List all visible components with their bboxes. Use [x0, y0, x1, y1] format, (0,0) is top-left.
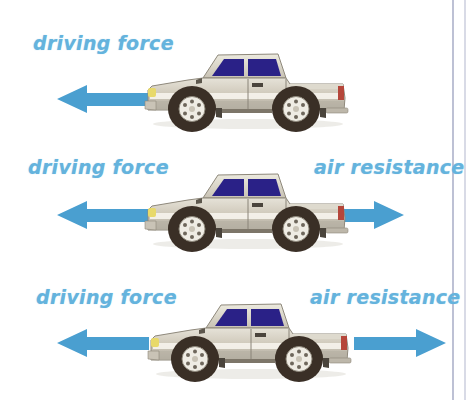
driving-force-arrow-left-row-3: [57, 328, 149, 358]
driving-force-arrow-left-row-1: [57, 84, 149, 114]
diagram-canvas: driving force: [0, 0, 468, 400]
pickup-truck-row-1: [140, 38, 355, 133]
force-diagram-row-2: driving force air resistance: [0, 138, 468, 268]
pickup-truck-row-3: [143, 288, 358, 383]
driving-force-arrow-left-row-2: [57, 200, 149, 230]
air-resistance-arrow-right-row-3: [354, 328, 446, 358]
pickup-truck-row-2: [140, 158, 355, 253]
force-diagram-row-3: driving force air resistance: [0, 266, 468, 396]
force-diagram-row-1: driving force: [0, 2, 468, 132]
